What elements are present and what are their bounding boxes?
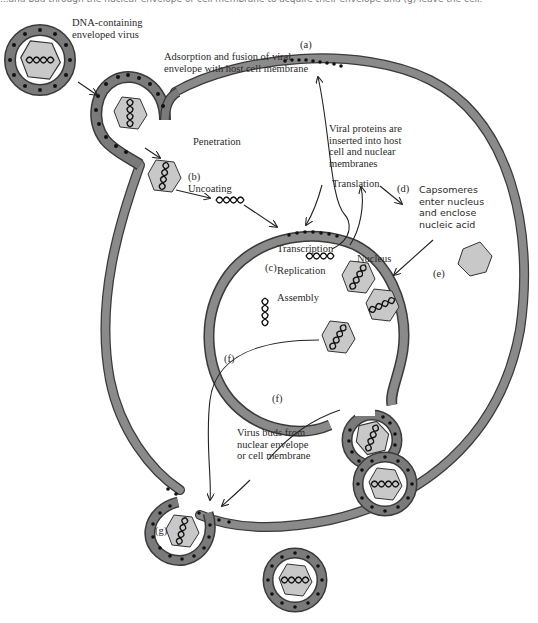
virus-initial [8, 28, 72, 92]
label-virus: DNA-containing enveloped virus [72, 17, 143, 40]
arrow-translation [350, 187, 362, 245]
label-viral-proteins: Viral proteins are inserted into host ce… [329, 123, 402, 169]
label-step-d: (d) [397, 183, 409, 195]
viral-replication-diagram [0, 0, 538, 623]
arrow-cell-bud [222, 480, 250, 506]
virus-released-from-cell [266, 551, 324, 609]
label-step-c: (c) [265, 262, 277, 274]
label-step-a: (a) [300, 39, 312, 51]
capsid-penetration [148, 160, 181, 192]
arrow-penetration [145, 148, 160, 158]
capsid-assembly [322, 321, 355, 353]
label-nucleus: Nucleus [357, 253, 391, 265]
label-uncoating: Uncoating [188, 183, 232, 195]
virus-released-from-nucleus [356, 455, 414, 513]
label-translation: Translation [332, 178, 379, 190]
label-virus-buds: Virus buds from nuclear envelope or cell… [237, 427, 310, 462]
dna-replicated [262, 298, 268, 326]
label-capsomeres: Capsomeres enter nucleus and enclose nuc… [419, 184, 484, 230]
label-adsorption: Adsorption and fusion of viral envelope … [164, 51, 308, 74]
label-step-e: (e) [433, 268, 445, 280]
label-assembly: Assembly [277, 292, 319, 304]
label-step-f2: (f) [272, 393, 283, 405]
label-replication: Replication [277, 265, 325, 277]
capsomere-hexagon [458, 242, 492, 276]
arrow-adsorption [78, 82, 97, 95]
label-penetration: Penetration [193, 136, 241, 148]
arrow-transcription [244, 205, 277, 227]
label-step-b: (b) [188, 171, 200, 183]
capsid-nucleus-1 [342, 261, 375, 293]
arrow-to-nuclear-membrane [306, 185, 322, 225]
label-step-f1: (f) [224, 353, 235, 365]
virus-adsorbing [94, 73, 178, 165]
label-step-g: (g) [155, 525, 167, 537]
dna-uncoated [216, 197, 244, 203]
label-transcription: Transcription [277, 243, 333, 255]
arrow-capsomeres-enter [394, 240, 433, 275]
